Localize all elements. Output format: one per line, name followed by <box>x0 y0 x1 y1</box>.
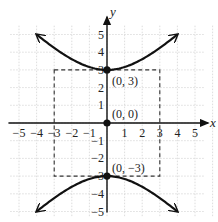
y-tick-label: −5 <box>91 205 104 219</box>
point-marker <box>103 173 110 180</box>
x-axis-label: x <box>209 115 216 130</box>
x-tick-label: 5 <box>192 126 198 140</box>
y-tick-label: −2 <box>91 151 104 165</box>
x-tick-label: 3 <box>157 126 163 140</box>
y-tick-label: 1 <box>98 98 104 112</box>
y-tick-label: 4 <box>98 45 104 59</box>
x-tick-label: −3 <box>48 126 61 140</box>
hyperbola-chart: x y −5−4−3−2−112345 −5−4−3−2−112345 (0, … <box>0 0 218 222</box>
x-tick-label: −5 <box>13 126 26 140</box>
point-label: (0, 0) <box>112 107 138 121</box>
point-label: (0, −3) <box>112 161 145 175</box>
point-label: (0, 3) <box>112 74 138 88</box>
x-tick-label: 2 <box>139 126 145 140</box>
point-marker <box>103 66 110 73</box>
y-tick-label: −1 <box>91 134 104 148</box>
x-tick-label: 1 <box>122 126 128 140</box>
grid <box>10 26 212 217</box>
point-marker <box>103 119 110 126</box>
x-tick-label: −2 <box>65 126 78 140</box>
y-axis-label: y <box>108 4 116 19</box>
x-tick-label: 4 <box>174 126 180 140</box>
x-tick-label: −4 <box>30 126 43 140</box>
y-tick-label: 2 <box>98 81 104 95</box>
x-tick-labels: −5−4−3−2−112345 <box>13 126 198 140</box>
y-tick-label: −4 <box>91 187 104 201</box>
y-tick-label: 5 <box>98 28 104 42</box>
